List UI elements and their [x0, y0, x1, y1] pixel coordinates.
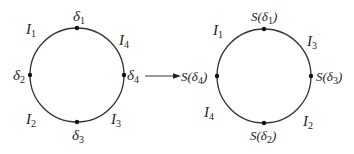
right-circle [217, 29, 311, 123]
point-delta1 [75, 26, 79, 30]
label-S-delta4: S(δ4) [181, 69, 207, 86]
point-S-delta2 [262, 121, 266, 125]
point-delta2 [28, 73, 32, 77]
label-arc-I2-right: I2 [302, 113, 313, 131]
right-circle-group: S(δ1) S(δ4) S(δ2) S(δ3) I1 I3 I4 I2 [181, 9, 342, 145]
label-arc-I1: I1 [25, 21, 36, 39]
point-S-delta4 [215, 74, 219, 78]
label-S-delta2: S(δ2) [250, 128, 276, 145]
label-arc-I4-right: I4 [203, 104, 214, 122]
label-delta2: δ2 [13, 67, 25, 85]
left-circle-group: δ1 δ2 δ3 δ4 I1 I4 I2 I3 [13, 8, 139, 145]
label-arc-I3-right: I3 [306, 33, 317, 51]
label-arc-I3: I3 [110, 111, 121, 129]
label-delta1: δ1 [73, 8, 85, 26]
label-delta3: δ3 [72, 127, 84, 145]
point-delta3 [75, 120, 79, 124]
point-S-delta1 [262, 27, 266, 31]
label-arc-I1-right: I1 [212, 22, 223, 40]
mapping-diagram: δ1 δ2 δ3 δ4 I1 I4 I2 I3 S(δ1) S(δ4) S(δ2… [0, 0, 354, 154]
arrowhead-icon [173, 73, 181, 79]
label-arc-I2: I2 [25, 111, 36, 129]
point-delta4 [122, 73, 126, 77]
mapping-arrow [145, 73, 181, 79]
label-S-delta3: S(δ3) [316, 69, 342, 86]
label-arc-I4: I4 [118, 32, 129, 50]
point-S-delta3 [309, 74, 313, 78]
left-circle [30, 28, 124, 122]
label-delta4: δ4 [127, 67, 139, 85]
label-S-delta1: S(δ1) [251, 9, 277, 26]
